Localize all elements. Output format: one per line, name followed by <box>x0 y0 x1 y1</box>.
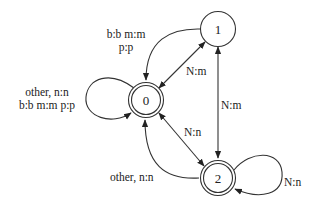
edge-2-self-loop <box>234 155 282 194</box>
edge-0-self-label-line1: other, n:n <box>25 86 69 99</box>
node-0-label: 0 <box>143 93 150 108</box>
edge-0-2-label: N:n <box>184 126 202 138</box>
node-1-label: 1 <box>215 22 222 37</box>
edge-2-to-0-label: other, n:n <box>110 171 154 184</box>
edge-0-1-label: N:m <box>186 65 207 77</box>
edge-0-self-label-line2: b:b m:m p:p <box>19 99 75 112</box>
node-0: 0 <box>129 83 164 118</box>
node-2: 2 <box>201 161 236 196</box>
edge-1-to-0-label-line1: b:b m:m <box>107 28 146 40</box>
edge-0-2-bidirectional <box>159 113 204 166</box>
state-diagram: 0 1 2 b:b m:m p:p other, n:n b:b m:m p:p… <box>0 0 317 215</box>
edge-1-2-label: N:m <box>221 99 242 111</box>
edge-2-self-label: N:n <box>284 176 302 188</box>
edge-0-self-loop <box>86 78 134 119</box>
node-2-label: 2 <box>215 171 222 186</box>
edge-1-to-0-label-line2: p:p <box>119 41 134 54</box>
node-1: 1 <box>201 12 236 47</box>
